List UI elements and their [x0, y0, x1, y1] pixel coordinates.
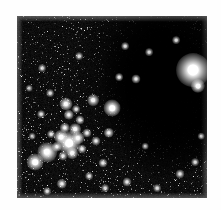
star-point [46, 89, 54, 97]
star-core [91, 98, 95, 102]
star-core [104, 187, 107, 190]
star-point [91, 136, 100, 145]
star-point [57, 179, 67, 189]
star-point [58, 151, 67, 160]
star-core [126, 181, 129, 184]
star-point [72, 105, 80, 113]
page-root [0, 0, 221, 210]
star-core [40, 113, 43, 116]
star-core [49, 92, 52, 95]
star-point [72, 132, 85, 145]
star-core [46, 190, 49, 193]
star-core [41, 67, 44, 70]
star-core [59, 135, 64, 140]
star-point [43, 187, 51, 195]
star-core [156, 187, 159, 190]
star-core [95, 140, 98, 143]
star-core [67, 113, 70, 116]
star-core [76, 136, 80, 140]
star-core [65, 139, 73, 147]
star-point [82, 128, 91, 137]
star-core [32, 159, 38, 165]
star-core [28, 87, 30, 89]
star-point [69, 123, 81, 135]
star-core [78, 55, 81, 58]
star-point [54, 130, 68, 144]
star-point [52, 142, 62, 152]
star-point [37, 110, 45, 118]
star-core [79, 119, 82, 122]
star-core [70, 151, 74, 155]
astronomical-image [17, 16, 207, 198]
star-core [64, 102, 68, 106]
star-point [27, 154, 44, 171]
star-core [62, 155, 65, 158]
star-point [101, 184, 109, 192]
dark-nebula-region [105, 16, 207, 176]
star-core [63, 126, 66, 129]
star-point [57, 131, 80, 154]
star-core [102, 162, 105, 165]
star-core [50, 133, 53, 136]
star-core [86, 132, 89, 135]
star-point [38, 64, 46, 72]
star-point [60, 123, 70, 133]
star-point [75, 52, 83, 60]
star-core [107, 131, 110, 134]
star-core [55, 145, 58, 148]
star-core [88, 175, 91, 178]
star-point [98, 158, 107, 167]
star-core [81, 148, 84, 151]
star-point [29, 133, 36, 140]
star-point [26, 85, 33, 92]
star-core [60, 182, 63, 185]
star-point [64, 110, 74, 120]
star-point [60, 98, 73, 111]
star-core [44, 149, 50, 155]
star-point [75, 115, 84, 124]
star-core [75, 108, 78, 111]
star-point [47, 130, 55, 138]
star-point [87, 94, 99, 106]
star-point [77, 144, 86, 153]
star-point [122, 177, 131, 186]
star-point [85, 172, 93, 180]
star-core [73, 127, 77, 131]
star-core [31, 135, 33, 137]
star-point [66, 147, 78, 159]
star-point [153, 184, 161, 192]
star-point [37, 142, 57, 162]
